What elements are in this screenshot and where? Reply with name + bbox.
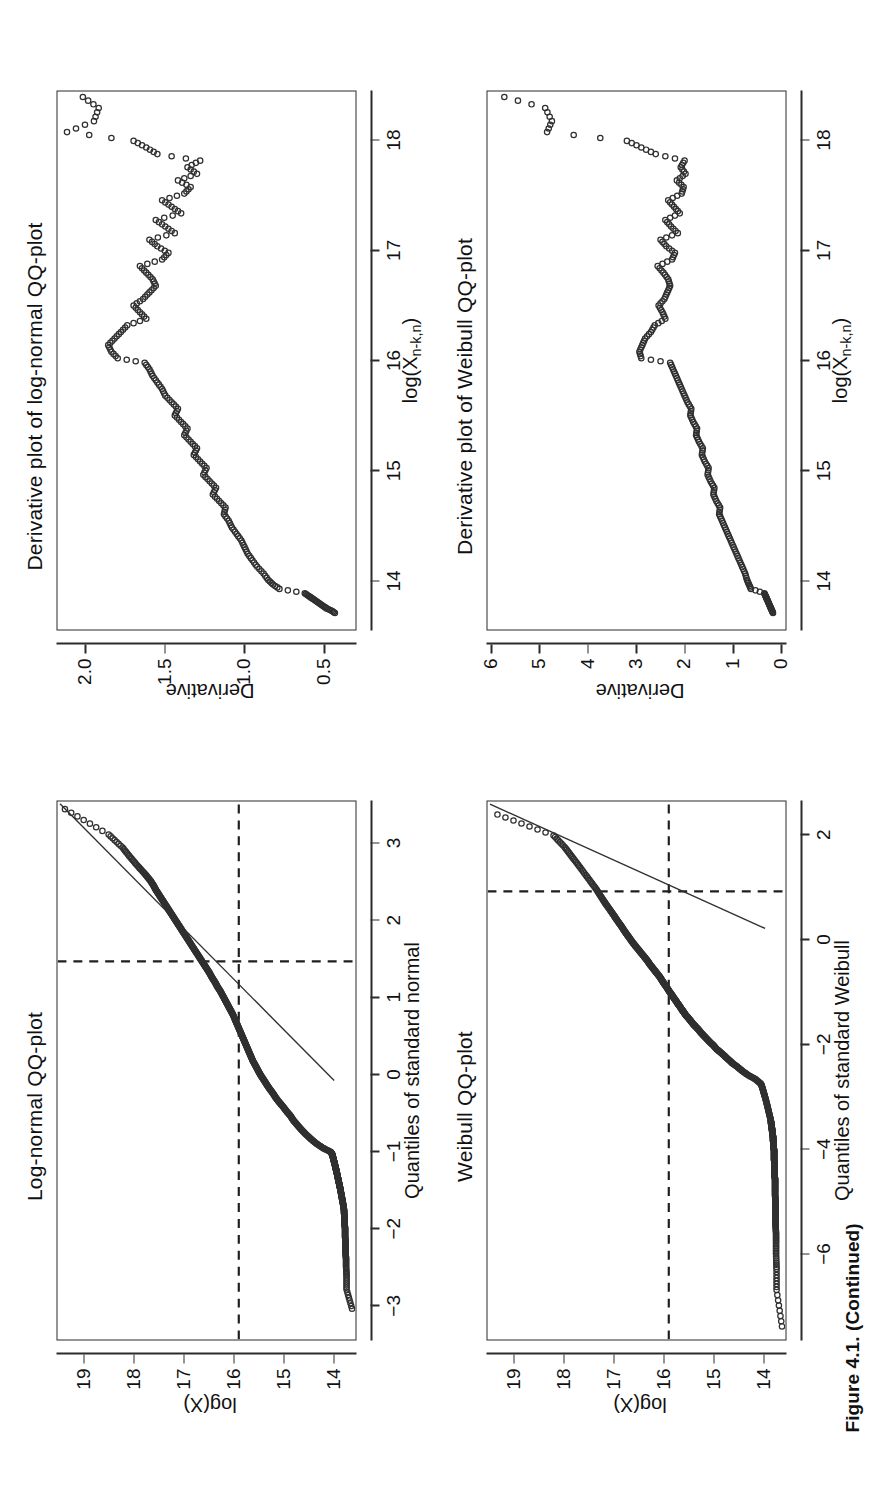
y-axis-title-lognormal-qq: log(X) (150, 1393, 270, 1416)
panel-title-weibull-qq: Weibull QQ-plot (452, 776, 476, 1436)
x-axis-tick (800, 249, 809, 251)
scatter-weibull-derivative (487, 91, 785, 629)
x-axis-tick (800, 1148, 809, 1150)
y-axis-tick (513, 1354, 515, 1363)
scatter-lognormal-qq (57, 801, 355, 1339)
plot-box-lognormal-derivative (56, 90, 356, 630)
y-axis-tick (233, 1354, 235, 1363)
y-axis-tick-label: 6 (479, 658, 501, 726)
x-axis-title-tail: ) (398, 317, 420, 324)
y-axis-tick-label: 19 (72, 1368, 94, 1436)
x-axis-tick (370, 996, 379, 998)
y-axis-tick-label: 15 (272, 1368, 294, 1436)
scatter-lognormal-derivative (57, 91, 355, 629)
y-axis-tick-label: 0 (769, 658, 791, 726)
y-axis-tick-label: 1 (721, 658, 743, 726)
figure-caption: Figure 4.1. (Continued) (841, 1223, 863, 1432)
y-axis-tick (635, 644, 637, 653)
x-axis-tick (370, 469, 379, 471)
panel-weibull-derivative: Derivative plot of Weibull QQ-plot 14151… (452, 66, 852, 726)
x-axis-tick (800, 938, 809, 940)
y-axis-tick-label: 14 (752, 1368, 774, 1436)
y-axis-tick (333, 1354, 335, 1363)
y-axis-tick-label: 5 (527, 658, 549, 726)
y-axis-line (56, 1352, 356, 1354)
x-axis-tick (370, 842, 379, 844)
x-axis-title-main: log(X (828, 356, 850, 403)
x-axis-title-tail: ) (828, 317, 850, 324)
plot-area-weibull-derivative (487, 91, 785, 629)
y-axis-tick (323, 644, 325, 653)
y-axis-tick (763, 1354, 765, 1363)
y-axis-tick (243, 644, 245, 653)
plot-area-lognormal-derivative (57, 91, 355, 629)
y-axis-tick (732, 644, 734, 653)
y-axis-tick (613, 1354, 615, 1363)
y-axis-tick-label: 19 (502, 1368, 524, 1436)
x-axis-title-subscript: n-k,n (407, 324, 423, 356)
x-axis-title-subscript: n-k,n (837, 324, 853, 356)
x-axis-tick (800, 139, 809, 141)
figure-page: Log-normal QQ-plot −3−2−10123 Quantiles … (0, 0, 871, 1496)
x-axis-tick (800, 580, 809, 582)
y-axis-tick (684, 644, 686, 653)
y-axis-tick-label: 15 (702, 1368, 724, 1436)
y-axis-tick-label: 2.0 (73, 658, 95, 726)
x-axis-tick (370, 249, 379, 251)
panel-title-lognormal-derivative: Derivative plot of log-normal QQ-plot (22, 66, 46, 726)
panel-title-lognormal-qq: Log-normal QQ-plot (22, 776, 46, 1436)
y-axis-tick (164, 644, 166, 653)
x-axis-tick (370, 139, 379, 141)
panel-title-weibull-derivative: Derivative plot of Weibull QQ-plot (452, 66, 476, 726)
x-axis-tick (370, 1227, 379, 1229)
plot-box-weibull-qq (486, 800, 786, 1340)
panel-weibull-qq: Weibull QQ-plot −6−4−202 Quantiles of st… (452, 776, 852, 1436)
y-axis-tick (663, 1354, 665, 1363)
y-axis-tick (713, 1354, 715, 1363)
x-axis-tick (800, 1043, 809, 1045)
panel-lognormal-derivative: Derivative plot of log-normal QQ-plot 14… (22, 66, 422, 726)
x-axis-tick (370, 1305, 379, 1307)
y-axis-tick-label: 0.5 (312, 658, 334, 726)
panel-lognormal-qq: Log-normal QQ-plot −3−2−10123 Quantiles … (22, 776, 422, 1436)
x-axis-tick (370, 1150, 379, 1152)
y-axis-tick-label: 18 (122, 1368, 144, 1436)
figure-grid: Log-normal QQ-plot −3−2−10123 Quantiles … (0, 0, 871, 1496)
plot-box-lognormal-qq (56, 800, 356, 1340)
plot-area-lognormal-qq (57, 801, 355, 1339)
y-axis-tick (283, 1354, 285, 1363)
y-axis-tick (780, 644, 782, 653)
x-axis-tick (370, 580, 379, 582)
x-axis-title-lognormal-qq: Quantiles of standard normal (400, 800, 423, 1340)
x-axis-tick (800, 469, 809, 471)
y-axis-tick-label: 14 (322, 1368, 344, 1436)
x-axis-line (370, 800, 372, 1340)
y-axis-title-weibull-qq: log(X) (580, 1393, 700, 1416)
x-axis-title-weibull-derivative: log(Xn-k,n) (828, 90, 853, 630)
y-axis-tick (183, 1354, 185, 1363)
y-axis-line (56, 642, 356, 644)
y-axis-tick (133, 1354, 135, 1363)
y-axis-title-weibull-derivative: Derivative (570, 679, 710, 702)
x-axis-title-lognormal-derivative: log(Xn-k,n) (398, 90, 423, 630)
y-axis-tick (563, 1354, 565, 1363)
x-axis-tick (800, 1253, 809, 1255)
y-axis-tick-label: 18 (552, 1368, 574, 1436)
x-axis-tick (370, 1073, 379, 1075)
plot-area-weibull-qq (487, 801, 785, 1339)
y-axis-tick (490, 644, 492, 653)
y-axis-tick (84, 644, 86, 653)
rotated-figure-canvas: Log-normal QQ-plot −3−2−10123 Quantiles … (0, 0, 871, 1496)
plot-box-weibull-derivative (486, 90, 786, 630)
y-axis-tick (587, 644, 589, 653)
y-axis-title-lognormal-derivative: Derivative (140, 679, 280, 702)
x-axis-title-main: log(X (398, 356, 420, 403)
x-axis-line (800, 800, 802, 1340)
x-axis-tick (370, 359, 379, 361)
y-axis-tick (538, 644, 540, 653)
x-axis-tick (800, 833, 809, 835)
x-axis-tick (800, 359, 809, 361)
y-axis-line (486, 1352, 786, 1354)
x-axis-tick (370, 919, 379, 921)
scatter-weibull-qq (487, 801, 785, 1339)
